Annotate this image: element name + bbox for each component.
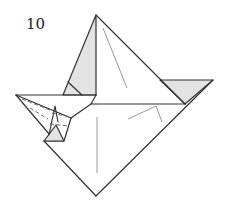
left-point-upper	[16, 95, 71, 118]
left-small-shaded-triangle	[44, 125, 64, 141]
left-lower-edge	[44, 141, 96, 196]
origami-diagram	[0, 0, 230, 204]
upper-crease-line	[103, 28, 127, 88]
hidden-fold-line-3	[50, 124, 68, 126]
right-crease-line-2	[156, 106, 162, 122]
hidden-fold-line-1	[22, 99, 50, 110]
left-shaded-flap	[63, 15, 96, 95]
left-square-top	[71, 104, 91, 118]
right-crease-line-1	[128, 106, 156, 119]
right-shaded-flap	[160, 80, 213, 104]
apex-right-diagonal	[96, 15, 185, 104]
body-notch-edge	[91, 95, 96, 104]
hidden-fold-line-4	[30, 108, 48, 119]
right-outer-edge	[96, 80, 213, 196]
